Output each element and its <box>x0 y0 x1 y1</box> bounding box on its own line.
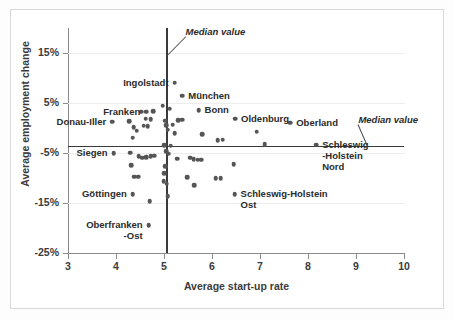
annotation-leader-line <box>166 36 186 56</box>
x-tick-mark <box>404 254 405 259</box>
scatter-point <box>168 143 173 148</box>
point-label: Schleswig-HolsteinNord <box>322 139 368 172</box>
scatter-point <box>233 116 238 121</box>
x-axis-title: Average start-up rate <box>68 280 405 292</box>
scatter-point <box>129 163 134 168</box>
scatter-point <box>163 164 168 169</box>
scatter-point <box>166 127 171 132</box>
scatter-point <box>145 124 150 129</box>
plot-area: IngolstadtMünchenBonnFrankenDonau-IllerO… <box>68 28 404 253</box>
point-label: Siegen <box>76 147 107 158</box>
point-label: Donau-Iller <box>57 116 107 127</box>
y-axis-title: Average employment change <box>19 29 31 199</box>
scatter-point <box>166 194 171 199</box>
scatter-point <box>148 117 153 122</box>
scatter-point <box>180 93 185 98</box>
x-tick-label: 10 <box>398 260 410 272</box>
scatter-point <box>144 109 149 114</box>
scatter-point <box>167 106 172 111</box>
scatter-point <box>167 151 172 156</box>
point-label: Ingolstadt <box>123 77 168 88</box>
x-tick-label: 3 <box>65 260 71 272</box>
x-tick-label: 4 <box>113 260 119 272</box>
scatter-point <box>136 174 141 179</box>
x-tick-mark <box>68 254 69 259</box>
median-value-vertical-line <box>166 28 167 253</box>
scatter-point <box>147 199 152 204</box>
scatter-point <box>199 157 204 162</box>
point-label: Franken <box>103 106 140 117</box>
scatter-point <box>192 183 197 188</box>
median-vertical-caption: Median value <box>186 26 246 37</box>
point-label: Oldenburg <box>241 113 289 124</box>
point-label: Schleswig-HolsteinOst <box>241 188 328 210</box>
scatter-point <box>160 103 165 108</box>
point-label: Bonn <box>205 104 229 115</box>
scatter-point <box>134 128 139 133</box>
scatter-point <box>172 131 177 136</box>
scatter-point <box>162 143 167 148</box>
scatter-point <box>152 153 157 158</box>
scatter-point <box>110 119 115 124</box>
scatter-point <box>200 132 205 137</box>
scatter-point <box>254 129 259 134</box>
x-tick-label: 8 <box>305 260 311 272</box>
x-axis-line <box>68 253 405 254</box>
x-tick-label: 6 <box>209 260 215 272</box>
scatter-point <box>162 171 167 176</box>
point-label: Göttingen <box>82 188 127 199</box>
point-label: Oberland <box>296 117 338 128</box>
chart-figure: 15%5%-5%-15%-25% 345678910 Average emplo… <box>0 0 454 321</box>
scatter-point <box>131 135 136 140</box>
scatter-point <box>218 176 223 181</box>
scatter-point <box>127 119 132 124</box>
scatter-point <box>170 122 175 127</box>
scatter-point <box>185 175 190 180</box>
median-horizontal-caption: Median value <box>358 114 418 125</box>
x-tick-mark <box>164 254 165 259</box>
point-label: Oberfranken -Ost <box>86 219 143 241</box>
scatter-point <box>151 109 156 114</box>
x-tick-mark <box>212 254 213 259</box>
x-tick-mark <box>116 254 117 259</box>
point-label: München <box>188 90 230 101</box>
scatter-point <box>231 162 236 167</box>
scatter-point <box>180 117 185 122</box>
x-tick-mark <box>308 254 309 259</box>
scatter-point <box>165 181 170 186</box>
scatter-point <box>175 156 180 161</box>
scatter-point <box>128 150 133 155</box>
scatter-point <box>314 142 319 147</box>
x-tick-label: 9 <box>353 260 359 272</box>
scatter-point <box>131 192 136 197</box>
scatter-point <box>111 151 116 156</box>
y-tick-label: -25% <box>14 246 59 258</box>
scatter-point <box>196 108 201 113</box>
scatter-point <box>172 80 177 85</box>
scatter-point <box>232 192 237 197</box>
scatter-point <box>146 223 151 228</box>
scatter-point <box>263 142 268 147</box>
x-tick-label: 7 <box>257 260 263 272</box>
scatter-point <box>220 137 225 142</box>
x-tick-mark <box>356 254 357 259</box>
x-tick-mark <box>260 254 261 259</box>
x-tick-label: 5 <box>161 260 167 272</box>
